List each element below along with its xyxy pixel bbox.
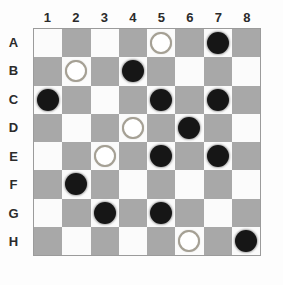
white-piece-A5[interactable] [150, 32, 172, 54]
square-E2[interactable] [62, 142, 90, 170]
square-E5[interactable] [147, 142, 175, 170]
square-B7[interactable] [204, 57, 232, 85]
square-A6[interactable] [175, 29, 203, 57]
black-piece-G3[interactable] [94, 202, 116, 224]
square-B2[interactable] [62, 57, 90, 85]
square-H8[interactable] [232, 227, 260, 255]
square-B6[interactable] [175, 57, 203, 85]
square-E1[interactable] [34, 142, 62, 170]
column-label-7: 7 [204, 4, 233, 26]
square-C8[interactable] [232, 86, 260, 114]
black-piece-C1[interactable] [37, 89, 59, 111]
column-label-3: 3 [90, 4, 119, 26]
row-label-F: F [0, 171, 33, 200]
row-label-H: H [0, 228, 33, 257]
square-H2[interactable] [62, 227, 90, 255]
white-piece-D4[interactable] [122, 117, 144, 139]
black-piece-H8[interactable] [235, 230, 257, 252]
square-F8[interactable] [232, 170, 260, 198]
square-B3[interactable] [91, 57, 119, 85]
square-C1[interactable] [34, 86, 62, 114]
square-D4[interactable] [119, 114, 147, 142]
square-A7[interactable] [204, 29, 232, 57]
square-D5[interactable] [147, 114, 175, 142]
row-label-A: A [0, 28, 33, 57]
square-A1[interactable] [34, 29, 62, 57]
square-E7[interactable] [204, 142, 232, 170]
square-A3[interactable] [91, 29, 119, 57]
square-F6[interactable] [175, 170, 203, 198]
square-F3[interactable] [91, 170, 119, 198]
square-C7[interactable] [204, 86, 232, 114]
square-C5[interactable] [147, 86, 175, 114]
column-label-6: 6 [176, 4, 205, 26]
row-label-C: C [0, 85, 33, 114]
square-G6[interactable] [175, 199, 203, 227]
square-A2[interactable] [62, 29, 90, 57]
row-label-D: D [0, 114, 33, 143]
square-A8[interactable] [232, 29, 260, 57]
checkers-board-panel: 12345678 ABCDEFGH [0, 0, 283, 285]
square-D6[interactable] [175, 114, 203, 142]
square-E6[interactable] [175, 142, 203, 170]
square-H4[interactable] [119, 227, 147, 255]
square-E3[interactable] [91, 142, 119, 170]
row-label-B: B [0, 57, 33, 86]
column-label-4: 4 [119, 4, 148, 26]
square-F2[interactable] [62, 170, 90, 198]
square-D2[interactable] [62, 114, 90, 142]
square-F4[interactable] [119, 170, 147, 198]
white-piece-B2[interactable] [65, 60, 87, 82]
black-piece-A7[interactable] [207, 32, 229, 54]
square-H7[interactable] [204, 227, 232, 255]
square-G4[interactable] [119, 199, 147, 227]
square-G2[interactable] [62, 199, 90, 227]
column-label-8: 8 [233, 4, 262, 26]
square-C4[interactable] [119, 86, 147, 114]
black-piece-C7[interactable] [207, 89, 229, 111]
square-H5[interactable] [147, 227, 175, 255]
square-D8[interactable] [232, 114, 260, 142]
black-piece-E5[interactable] [150, 145, 172, 167]
square-A5[interactable] [147, 29, 175, 57]
square-H6[interactable] [175, 227, 203, 255]
column-label-5: 5 [147, 4, 176, 26]
square-G8[interactable] [232, 199, 260, 227]
square-C6[interactable] [175, 86, 203, 114]
square-H3[interactable] [91, 227, 119, 255]
square-D3[interactable] [91, 114, 119, 142]
row-label-G: G [0, 199, 33, 228]
row-labels: ABCDEFGH [0, 28, 33, 256]
square-D1[interactable] [34, 114, 62, 142]
square-G5[interactable] [147, 199, 175, 227]
square-G3[interactable] [91, 199, 119, 227]
square-B5[interactable] [147, 57, 175, 85]
black-piece-B4[interactable] [122, 60, 144, 82]
white-piece-E3[interactable] [94, 145, 116, 167]
black-piece-D6[interactable] [178, 117, 200, 139]
square-F1[interactable] [34, 170, 62, 198]
square-B8[interactable] [232, 57, 260, 85]
column-label-1: 1 [33, 4, 62, 26]
square-D7[interactable] [204, 114, 232, 142]
row-label-E: E [0, 142, 33, 171]
square-G7[interactable] [204, 199, 232, 227]
column-label-2: 2 [62, 4, 91, 26]
square-F7[interactable] [204, 170, 232, 198]
white-piece-H6[interactable] [178, 230, 200, 252]
square-H1[interactable] [34, 227, 62, 255]
black-piece-E7[interactable] [207, 145, 229, 167]
black-piece-F2[interactable] [65, 173, 87, 195]
square-E8[interactable] [232, 142, 260, 170]
square-C2[interactable] [62, 86, 90, 114]
square-B1[interactable] [34, 57, 62, 85]
square-G1[interactable] [34, 199, 62, 227]
square-E4[interactable] [119, 142, 147, 170]
black-piece-G5[interactable] [150, 202, 172, 224]
column-labels: 12345678 [33, 4, 261, 26]
black-piece-C5[interactable] [150, 89, 172, 111]
square-A4[interactable] [119, 29, 147, 57]
square-C3[interactable] [91, 86, 119, 114]
square-F5[interactable] [147, 170, 175, 198]
square-B4[interactable] [119, 57, 147, 85]
